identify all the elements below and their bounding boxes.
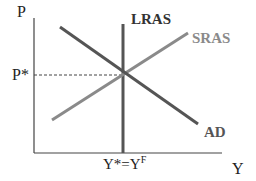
lras-label: LRAS — [131, 11, 171, 27]
ad-label: AD — [204, 124, 226, 140]
sras-label: SRAS — [192, 30, 230, 46]
price-equilibrium-label: P* — [12, 66, 29, 83]
output-label-superscript: F — [141, 154, 147, 165]
output-label-main: Y*=Y — [103, 156, 141, 172]
y-axis-label: P — [17, 3, 26, 20]
output-equilibrium-label: Y*=YF — [103, 154, 147, 172]
sras-curve — [52, 33, 188, 120]
x-axis-label: Y — [232, 160, 244, 177]
ad-as-diagram: P Y P* Y*=YF LRAS SRAS AD — [0, 0, 256, 181]
